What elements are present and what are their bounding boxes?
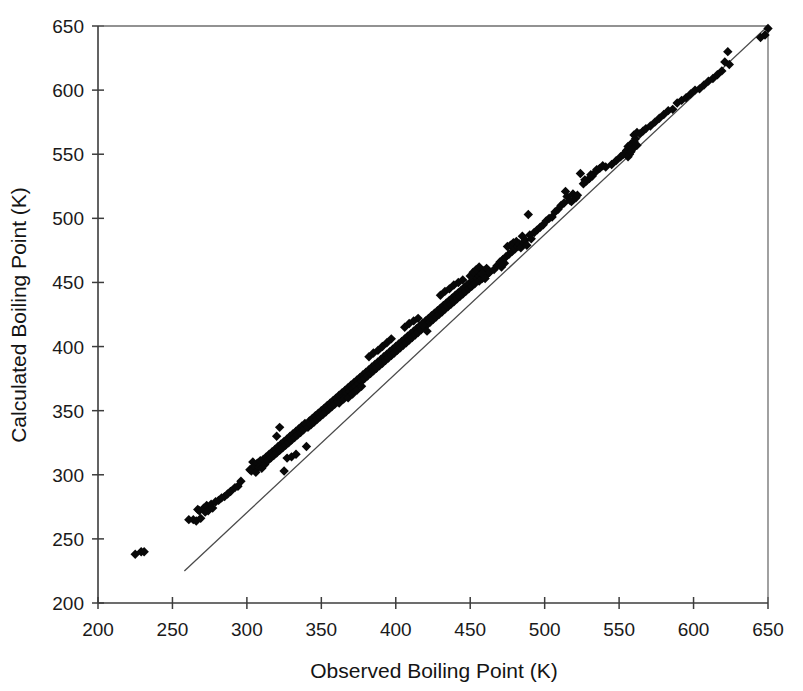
y-axis-title: Calculated Boiling Point (K)	[7, 187, 30, 443]
y-tick-label: 200	[52, 593, 84, 614]
y-tick-label: 300	[52, 465, 84, 486]
data-point-marker	[275, 423, 284, 432]
y-tick-label: 350	[52, 401, 84, 422]
data-points	[131, 24, 773, 559]
data-point-marker	[272, 432, 281, 441]
y-tick-label: 400	[52, 337, 84, 358]
y-tick-label: 450	[52, 272, 84, 293]
data-point-marker	[524, 210, 533, 219]
x-tick-label: 400	[380, 619, 412, 640]
x-tick-label: 600	[678, 619, 710, 640]
y-tick-label: 550	[52, 144, 84, 165]
x-tick-label: 450	[454, 619, 486, 640]
y-tick-label: 500	[52, 208, 84, 229]
x-tick-label: 500	[529, 619, 561, 640]
x-tick-label: 350	[305, 619, 337, 640]
x-tick-label: 250	[157, 619, 189, 640]
x-axis-title: Observed Boiling Point (K)	[310, 659, 557, 682]
y-tick-label: 250	[52, 529, 84, 550]
y-tick-label: 650	[52, 16, 84, 37]
data-point-marker	[302, 442, 311, 451]
x-tick-label: 200	[82, 619, 114, 640]
data-point-marker	[723, 47, 732, 56]
x-tick-label: 550	[603, 619, 635, 640]
y-tick-label: 600	[52, 80, 84, 101]
x-tick-label: 650	[752, 619, 784, 640]
x-tick-label: 300	[231, 619, 263, 640]
scatter-plot-figure: 2002503003504004505005506006502002503003…	[0, 0, 803, 691]
fit-line	[184, 26, 768, 571]
plot-canvas: 2002503003504004505005506006502002503003…	[0, 0, 803, 691]
regression-line	[184, 26, 768, 571]
